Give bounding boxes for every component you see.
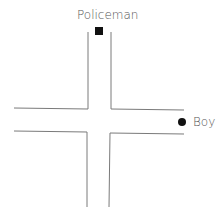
road-edge-upper-left xyxy=(14,32,88,109)
road-edges xyxy=(14,32,184,207)
road-edge-lower-right xyxy=(109,133,184,207)
boy-marker-circle-icon xyxy=(178,118,186,126)
road-edge-lower-left xyxy=(14,131,87,207)
boy-label: Boy xyxy=(193,115,215,129)
policeman-label: Policeman xyxy=(77,8,138,22)
policeman-marker-square-icon xyxy=(95,27,103,35)
road-edge-upper-right xyxy=(111,32,184,110)
crossroads-diagram xyxy=(0,0,223,215)
